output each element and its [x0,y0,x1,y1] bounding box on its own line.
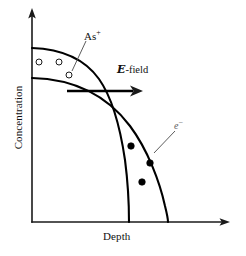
figure-canvas [0,0,246,256]
electron-marker [128,143,135,150]
as-plus-label: As+ [84,31,101,42]
as-plus-ion-marker [66,72,72,78]
as-plus-concentration-curve [32,48,129,222]
e-field-label: E-field [117,64,148,76]
y-axis-group [28,8,36,222]
as-plus-label-charge: + [96,28,101,37]
electron-markers [128,143,154,186]
as-plus-ion-marker [56,59,62,65]
y-axis-label: Concentration [13,70,24,166]
electron-marker [147,160,154,167]
electron-label-charge: − [178,118,183,127]
as-plus-leader-line [72,41,86,71]
concentration-depth-figure: Concentration Depth As+ E-field e− [0,0,246,256]
x-axis-group [32,218,230,226]
electron-label: e− [174,121,183,131]
electron-leader-line [154,131,175,153]
e-field-label-text: -field [125,64,148,75]
as-plus-ion-marker [36,59,42,65]
electron-concentration-curve [32,78,168,222]
x-axis-label: Depth [103,231,130,242]
as-plus-label-text: As [84,30,96,42]
electron-marker [139,179,146,186]
as-plus-ion-markers [36,59,72,78]
